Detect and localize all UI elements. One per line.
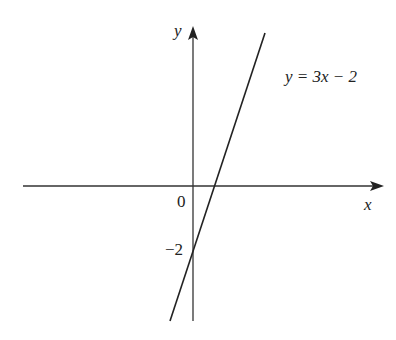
plot-area [0,0,396,340]
y-tick-label: −2 [165,241,183,258]
origin-label: 0 [177,193,186,210]
graph: y x 0 −2 y = 3x − 2 [0,0,396,340]
equation-label: y = 3x − 2 [285,68,357,85]
x-axis-label: x [364,196,372,213]
y-axis-label: y [174,22,182,39]
line-y-equals-3x-minus-2 [170,33,265,321]
